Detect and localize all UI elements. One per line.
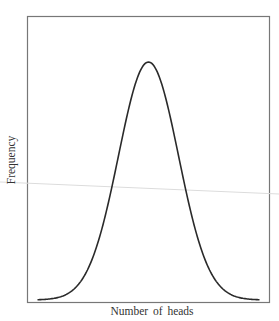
scan-artifact-line	[0, 182, 279, 194]
plot-frame	[28, 17, 270, 303]
distribution-curve	[38, 62, 260, 300]
x-axis-label: Number of heads	[110, 305, 194, 317]
normal-distribution-chart: Frequency Number of heads	[0, 0, 279, 321]
y-axis-label: Frequency	[5, 135, 18, 184]
